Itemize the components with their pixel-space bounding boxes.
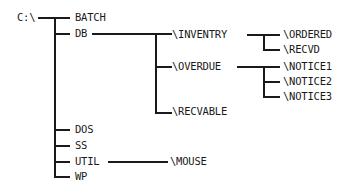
- node-recvable: \RECVABLE: [172, 105, 227, 117]
- node-overdue: \OVERDUE: [172, 60, 221, 72]
- node-ss: SS: [75, 139, 87, 151]
- node-notice1: \NOTICE1: [283, 60, 332, 72]
- node-util: UTIL: [75, 155, 100, 167]
- recvd-stub: [263, 49, 280, 51]
- node-mouse: \MOUSE: [170, 155, 207, 167]
- node-db: DB: [75, 27, 87, 39]
- inventry-trunk: [263, 34, 265, 49]
- db-trunk: [155, 33, 157, 113]
- node-notice2: \NOTICE2: [283, 75, 332, 87]
- node-inventry: \INVENTRY: [172, 28, 227, 40]
- dos-stub: [54, 129, 70, 131]
- node-notice3: \NOTICE3: [283, 90, 332, 102]
- util-connector: [108, 161, 168, 163]
- root-trunk: [54, 17, 56, 176]
- recvable-stub: [155, 112, 172, 114]
- util-stub: [54, 161, 70, 163]
- node-recvd: \RECVD: [283, 43, 320, 55]
- notice2-stub: [263, 81, 280, 83]
- node-ordered: \ORDERED: [283, 28, 332, 40]
- overdue-connector: [237, 66, 280, 68]
- overdue-stub: [155, 66, 172, 68]
- ss-stub: [54, 145, 70, 147]
- db-connector: [92, 33, 172, 35]
- node-batch: BATCH: [75, 11, 106, 23]
- db-stub: [54, 33, 70, 35]
- wp-stub: [54, 176, 70, 178]
- notice3-stub: [263, 96, 280, 98]
- root-node: C:\: [17, 11, 35, 23]
- node-dos: DOS: [75, 123, 93, 135]
- node-wp: WP: [75, 170, 87, 182]
